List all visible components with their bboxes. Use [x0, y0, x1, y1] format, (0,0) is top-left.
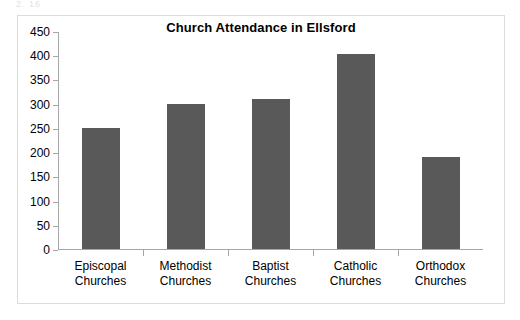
y-axis-label: 250	[30, 122, 50, 136]
y-tick-200	[53, 153, 58, 154]
y-axis-label: 0	[43, 243, 50, 257]
bar	[252, 99, 290, 249]
bar	[167, 104, 205, 249]
y-axis-label: 300	[30, 98, 50, 112]
bar	[337, 54, 375, 249]
x-tick	[313, 250, 314, 256]
x-tick	[143, 250, 144, 256]
y-axis-label: 150	[30, 170, 50, 184]
chart-frame: Church Attendance in Ellsford 0501001502…	[17, 15, 505, 304]
y-tick-0	[53, 250, 58, 251]
y-axis-label: 450	[30, 25, 50, 39]
x-axis-category-label: EpiscopalChurches	[74, 259, 126, 289]
x-axis-line	[58, 249, 483, 250]
y-tick-450	[53, 32, 58, 33]
y-axis-label: 50	[37, 219, 50, 233]
x-tick	[398, 250, 399, 256]
plot-area: 050100150200250300350400450 EpiscopalChu…	[58, 32, 483, 250]
y-tick-100	[53, 202, 58, 203]
x-tick	[228, 250, 229, 256]
y-tick-250	[53, 129, 58, 130]
x-axis-category-label: OrthodoxChurches	[415, 259, 466, 289]
x-axis-category-label: BaptistChurches	[245, 259, 296, 289]
y-tick-50	[53, 226, 58, 227]
x-axis-category-label: CatholicChurches	[330, 259, 381, 289]
y-axis-label: 400	[30, 49, 50, 63]
bar	[422, 157, 460, 249]
y-tick-300	[53, 105, 58, 106]
y-tick-350	[53, 80, 58, 81]
y-axis-label: 100	[30, 195, 50, 209]
y-tick-150	[53, 177, 58, 178]
y-axis-line	[58, 32, 59, 250]
y-axis-label: 200	[30, 146, 50, 160]
cropped-header-artifact: 2. 16	[16, 0, 41, 9]
y-tick-400	[53, 56, 58, 57]
bar	[82, 128, 120, 249]
y-axis-label: 350	[30, 73, 50, 87]
x-axis-category-label: MethodistChurches	[159, 259, 211, 289]
